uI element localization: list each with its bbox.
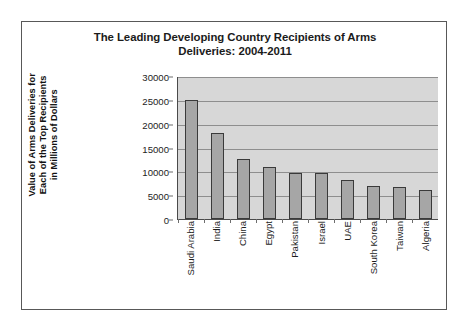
x-axis-tick-label: UAE	[341, 221, 352, 241]
x-axis-tick-label: Egypt	[263, 221, 274, 246]
y-axis-tick-mark	[169, 220, 173, 221]
y-axis-tick-label: 10000	[142, 167, 169, 178]
plot-area	[177, 77, 438, 220]
bar-slot	[178, 77, 204, 219]
y-axis-tick-mark	[169, 196, 173, 197]
bar-series	[178, 77, 438, 219]
x-axis-tick-label: Pakistan	[289, 221, 300, 258]
bar-slot	[256, 77, 282, 219]
bar-slot	[412, 77, 438, 219]
x-label-slot: Pakistan	[281, 221, 307, 303]
y-axis-tick-mark	[169, 124, 173, 125]
bar[interactable]	[367, 186, 380, 219]
x-label-slot: India	[203, 221, 229, 303]
bar-slot	[204, 77, 230, 219]
y-axis-title-line-2: Each of the Top Recipients	[38, 55, 49, 215]
y-axis-tick-labels: 300002500020000150001000050000	[128, 77, 173, 220]
bar-slot	[360, 77, 386, 219]
x-label-slot: South Korea	[360, 221, 386, 303]
y-axis-title-line-1: Value of Arms Deliveries for	[27, 55, 38, 215]
x-label-slot: Algeria	[412, 221, 438, 303]
bar-slot	[386, 77, 412, 219]
bar-slot	[334, 77, 360, 219]
y-axis-title-line-3: in Millions of Dollars	[50, 55, 61, 215]
y-axis-tick-mark	[169, 148, 173, 149]
y-axis-tick-label: 25000	[142, 95, 169, 106]
bar[interactable]	[289, 173, 302, 219]
x-label-slot: Saudi Arabia	[177, 221, 203, 303]
bar[interactable]	[263, 167, 276, 219]
bar[interactable]	[315, 173, 328, 219]
bar-slot	[230, 77, 256, 219]
x-axis-tick-label: India	[211, 221, 222, 242]
x-label-slot: China	[229, 221, 255, 303]
bar[interactable]	[341, 180, 354, 219]
chart-figure-frame: The Leading Developing Country Recipient…	[21, 21, 447, 310]
chart-title-line-2: Deliveries: 2004-2011	[32, 45, 438, 59]
bar[interactable]	[393, 187, 406, 219]
chart-title-line-1: The Leading Developing Country Recipient…	[32, 31, 438, 45]
x-axis-tick-label: Algeria	[419, 221, 430, 251]
x-axis-tick-label: Taiwan	[393, 221, 404, 251]
plot-wrapper: 300002500020000150001000050000	[128, 77, 438, 220]
x-axis-tick-label: China	[237, 221, 248, 246]
y-axis-tick-label: 30000	[142, 72, 169, 83]
x-axis-tick-label: Israel	[315, 221, 326, 244]
x-axis-tick-labels: Saudi ArabiaIndiaChinaEgyptPakistanIsrae…	[177, 221, 438, 303]
x-label-slot: UAE	[334, 221, 360, 303]
y-axis-tick-mark	[169, 77, 173, 78]
x-axis-tick-label: Saudi Arabia	[185, 221, 196, 275]
bar[interactable]	[237, 159, 250, 219]
bar[interactable]	[185, 100, 198, 219]
bar[interactable]	[211, 133, 224, 219]
x-label-slot: Israel	[307, 221, 333, 303]
chart-title: The Leading Developing Country Recipient…	[32, 31, 438, 58]
x-label-slot: Taiwan	[386, 221, 412, 303]
y-axis-tick-label: 15000	[142, 143, 169, 154]
bar-slot	[282, 77, 308, 219]
bar[interactable]	[419, 190, 432, 219]
x-label-slot: Egypt	[255, 221, 281, 303]
y-axis-tick-label: 20000	[142, 119, 169, 130]
y-axis-tick-label: 5000	[148, 191, 169, 202]
y-axis-title: Value of Arms Deliveries for Each of the…	[27, 55, 61, 215]
bar-slot	[308, 77, 334, 219]
y-axis-tick-mark	[169, 172, 173, 173]
y-axis-tick-mark	[169, 100, 173, 101]
x-axis-tick-label: South Korea	[367, 221, 378, 274]
